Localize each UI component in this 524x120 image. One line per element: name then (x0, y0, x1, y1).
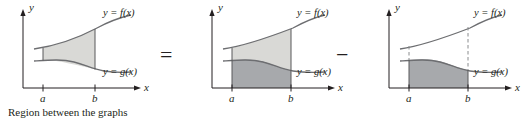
panel-area-under-f: y x a b y = f(x) y = g(x) (209, 1, 343, 104)
y-axis-label-panel2: y (217, 1, 223, 13)
x-axis-arrow (134, 85, 141, 90)
x-axis-arrow-panel3 (505, 85, 512, 90)
curve-label-f-panel2: y = f(x) (296, 7, 329, 19)
x-axis-label-panel2: x (337, 81, 343, 93)
panel-area-under-g: y x a b y = f(x) y = g(x) (386, 1, 520, 104)
y-axis-arrow-panel2 (209, 9, 214, 16)
shaded-region-between-curves (43, 29, 95, 69)
shaded-region-under-g-panel3 (409, 59, 468, 88)
panel-region-between-graphs: y x a b y = f(x) y = g(x) Region between… (8, 1, 149, 118)
x-axis-label-panel3: x (514, 81, 520, 93)
tick-label-b: b (92, 92, 98, 104)
tick-label-a-panel3: a (406, 92, 412, 104)
operator-equals: = (160, 42, 172, 67)
curve-label-g-panel2: y = g(x) (296, 66, 331, 78)
operator-minus: − (336, 42, 348, 67)
curve-label-f: y = f(x) (102, 7, 135, 19)
curve-label-f-panel3: y = f(x) (473, 7, 506, 19)
tick-label-b-panel3: b (465, 92, 471, 104)
tick-label-b-panel2: b (288, 92, 294, 104)
y-axis-arrow-panel3 (386, 9, 391, 16)
x-axis-arrow-panel2 (328, 85, 335, 90)
figure-caption: Region between the graphs (8, 106, 127, 118)
region-between-graphs-figure: y x a b y = f(x) y = g(x) Region between… (0, 0, 524, 120)
y-axis-label-panel3: y (394, 1, 400, 13)
tick-label-a-panel2: a (229, 92, 235, 104)
curve-label-g-panel3: y = g(x) (473, 66, 508, 78)
y-axis-arrow (20, 9, 25, 16)
curve-label-g: y = g(x) (102, 66, 137, 78)
tick-label-a: a (40, 92, 46, 104)
y-axis-label: y (28, 1, 34, 13)
x-axis-label: x (143, 81, 149, 93)
curve-f-panel3 (400, 15, 502, 49)
